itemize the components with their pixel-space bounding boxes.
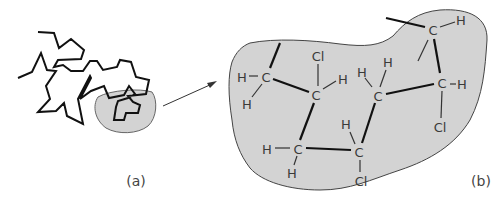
atom-c2-cl: Cl — [312, 49, 325, 64]
atom-c4-cl: Cl — [355, 174, 368, 189]
atom-c5-h1: H — [357, 65, 367, 80]
atom-c7-h: H — [456, 13, 466, 28]
atom-c3-h1: H — [262, 142, 272, 157]
arrow-head-icon — [207, 81, 217, 88]
atom-c6: C — [437, 76, 446, 91]
atom-c5-h2: H — [383, 55, 393, 70]
atom-c7: C — [428, 23, 437, 38]
figure-canvas: C H H C Cl H C H H C H Cl C H H C H Cl C… — [0, 0, 502, 211]
atom-c3-h2: H — [287, 166, 297, 181]
magnified-region-b — [229, 10, 487, 190]
atom-c2: C — [311, 88, 320, 103]
atom-c2-h: H — [338, 72, 348, 87]
magnify-arrow — [163, 84, 212, 106]
atom-c1-h2: H — [242, 97, 252, 112]
atom-c6-cl: Cl — [434, 120, 447, 135]
atom-c3: C — [293, 142, 302, 157]
atom-c1: C — [261, 70, 270, 85]
atom-c4-h: H — [341, 117, 351, 132]
panel-label-b: (b) — [471, 173, 491, 189]
highlight-region-a — [95, 90, 156, 133]
panel-label-a: (a) — [126, 173, 146, 189]
atom-c5: C — [373, 89, 382, 104]
atom-c6-h: H — [457, 77, 467, 92]
atom-c1-h1: H — [237, 70, 247, 85]
atom-c4: C — [354, 145, 363, 160]
